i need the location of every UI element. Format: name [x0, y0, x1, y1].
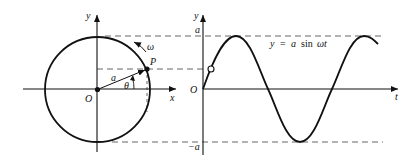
t-axis-label: t — [395, 91, 398, 102]
x-axis-label: x — [169, 92, 175, 103]
svg-text:sin: sin — [301, 38, 313, 49]
right-y-label: y — [193, 10, 199, 21]
svg-text:y: y — [269, 38, 275, 49]
svg-text:a: a — [291, 38, 296, 49]
origin-dot — [95, 87, 100, 92]
omega-rotation-arrow-icon — [134, 42, 146, 52]
point-p-label: P — [149, 56, 156, 67]
left-figure: y x O P a θ ω — [23, 10, 176, 152]
amplitude-neg-label: −a — [188, 141, 200, 152]
point-p-dot — [144, 66, 149, 71]
right-figure: y a −a O t y = a sin ωt — [188, 10, 398, 155]
amplitude-pos-label: a — [195, 24, 200, 35]
left-y-label: y — [85, 10, 91, 21]
radius-label: a — [111, 72, 116, 83]
equation-label: y = a sin ωt — [269, 38, 327, 49]
origin-label-left: O — [85, 93, 92, 104]
shm-diagram: y x O P a θ ω y a −a O t y = a sin ωt — [0, 0, 416, 164]
svg-text:=: = — [280, 38, 286, 49]
projected-point-marker — [208, 66, 214, 72]
radius-vector — [98, 70, 146, 90]
omega-label: ω — [147, 41, 154, 52]
svg-text:ωt: ωt — [317, 38, 327, 49]
origin-label-right: O — [190, 84, 197, 95]
angle-label: θ — [124, 80, 129, 91]
